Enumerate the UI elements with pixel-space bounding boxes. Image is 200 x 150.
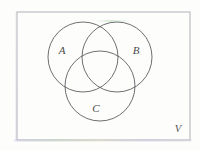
set-label-b: B: [133, 44, 140, 56]
figure-background: [0, 0, 200, 150]
venn-diagram-canvas: A B C V: [0, 0, 200, 150]
set-label-a: A: [58, 44, 66, 56]
venn-diagram-figure: A B C V: [0, 0, 200, 150]
set-label-c: C: [92, 102, 100, 114]
